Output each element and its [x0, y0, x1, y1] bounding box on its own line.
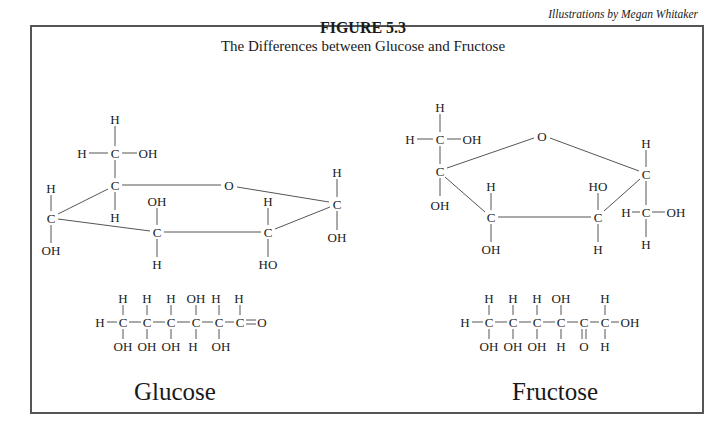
- atom-label: C: [642, 205, 651, 220]
- atom-label: H: [641, 237, 650, 252]
- atom-label: HO: [589, 179, 608, 194]
- atom-label: OH: [148, 194, 167, 209]
- atom-label: OH: [667, 205, 686, 220]
- atom-label: H: [332, 165, 341, 180]
- atom-label: C: [192, 315, 201, 330]
- atom-label: H: [118, 291, 127, 306]
- glucose-linear-structure: HHHOHHHHCCCCCCOOHOHOHHOH: [95, 291, 266, 354]
- atom-label: OH: [552, 291, 571, 306]
- atom-label: C: [642, 167, 651, 182]
- atom-label: H: [641, 136, 650, 151]
- atom-label: OH: [621, 315, 640, 330]
- atom-label: OH: [139, 146, 158, 161]
- atom-label: C: [153, 225, 162, 240]
- atom-label: H: [593, 242, 602, 257]
- atom-label: OH: [114, 339, 133, 354]
- atom-label: OH: [42, 243, 61, 258]
- atom-label: H: [263, 194, 272, 209]
- atom-label: C: [533, 315, 542, 330]
- atom-label: H: [110, 210, 119, 225]
- atom-label: O: [257, 315, 266, 330]
- atom-label: C: [601, 315, 610, 330]
- atom-label: C: [580, 315, 589, 330]
- atom-label: C: [333, 197, 342, 212]
- atom-label: H: [405, 132, 414, 147]
- fructose-linear-structure: HHHOHHHCCCCCCOHOHOHOHHOH: [460, 291, 639, 354]
- atom-label: C: [167, 315, 176, 330]
- bond-line: [447, 138, 534, 168]
- atom-label: C: [436, 164, 445, 179]
- bond-line: [445, 177, 485, 212]
- atom-label: C: [111, 178, 120, 193]
- atom-label: O: [537, 129, 546, 144]
- atom-label: C: [47, 211, 56, 226]
- bond-line: [58, 189, 108, 214]
- bond-line: [275, 207, 330, 229]
- atom-label: H: [486, 179, 495, 194]
- atom-label: H: [152, 257, 161, 272]
- atom-label: OH: [187, 291, 206, 306]
- fructose-label: Fructose: [512, 378, 598, 406]
- atom-label: C: [236, 315, 245, 330]
- atom-label: H: [234, 291, 243, 306]
- glucose-ring-structure: HHCOHCHOHCOHOHCHHCHOHCOH: [42, 112, 347, 272]
- atom-label: H: [142, 291, 151, 306]
- atom-label: OH: [162, 339, 181, 354]
- atom-label: OH: [528, 339, 547, 354]
- atom-label: H: [188, 339, 197, 354]
- atom-label: H: [460, 315, 469, 330]
- bond-line: [237, 187, 329, 202]
- atom-label: H: [600, 339, 609, 354]
- atom-label: H: [508, 291, 517, 306]
- atom-label: H: [484, 291, 493, 306]
- atom-label: C: [485, 315, 494, 330]
- atom-label: OH: [482, 242, 501, 257]
- atom-label: C: [264, 225, 273, 240]
- atom-label: C: [119, 315, 128, 330]
- atom-label: C: [215, 315, 224, 330]
- atom-label: H: [166, 291, 175, 306]
- atom-label: H: [600, 291, 609, 306]
- atom-label: HO: [259, 257, 278, 272]
- atom-label: O: [579, 339, 588, 354]
- atom-label: OH: [504, 339, 523, 354]
- atom-label: H: [532, 291, 541, 306]
- molecule-diagram: HHCOHCHOHCOHOHCHHCHOHCOH HHHOHHHHCCCCCCO…: [0, 0, 726, 437]
- atom-label: C: [143, 315, 152, 330]
- atom-label: H: [77, 146, 86, 161]
- atom-label: O: [224, 178, 233, 193]
- atom-label: C: [111, 146, 120, 161]
- atom-label: H: [556, 339, 565, 354]
- atom-label: OH: [480, 339, 499, 354]
- bond-line: [58, 219, 150, 231]
- atom-label: C: [487, 210, 496, 225]
- atom-label: OH: [138, 339, 157, 354]
- atom-label: OH: [328, 230, 347, 245]
- atom-label: C: [557, 315, 566, 330]
- atom-label: OH: [212, 339, 231, 354]
- fructose-ring-structure: HHCOHCOHOHCOHHOCHHCHCOHH: [405, 100, 685, 257]
- atom-label: H: [211, 291, 220, 306]
- atom-label: C: [436, 132, 445, 147]
- atom-label: H: [95, 315, 104, 330]
- atom-label: C: [509, 315, 518, 330]
- glucose-label: Glucose: [134, 378, 216, 406]
- atom-label: H: [110, 112, 119, 127]
- atom-label: OH: [431, 198, 450, 213]
- atom-label: C: [594, 210, 603, 225]
- atom-label: H: [46, 181, 55, 196]
- atom-label: OH: [463, 132, 482, 147]
- atom-label: H: [621, 205, 630, 220]
- bond-line: [550, 138, 639, 171]
- atom-label: H: [435, 100, 444, 115]
